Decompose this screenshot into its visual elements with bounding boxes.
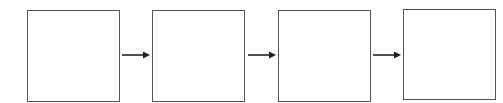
arrow-right-icon — [247, 50, 277, 60]
process-box-3 — [278, 10, 371, 102]
process-box-2 — [152, 10, 245, 102]
arrow-right-icon — [372, 50, 402, 60]
process-box-4 — [403, 9, 496, 100]
arrow-right-icon — [121, 50, 151, 60]
process-box-1 — [27, 10, 120, 102]
